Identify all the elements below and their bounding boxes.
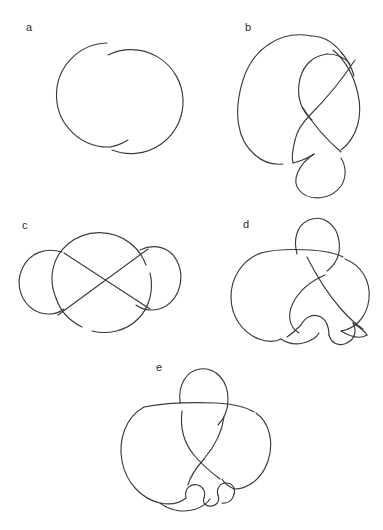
knot-drawing-d	[215, 205, 383, 360]
top-loop	[296, 218, 340, 271]
link-component-right	[108, 50, 183, 154]
bottom-zigzag-middle	[203, 495, 218, 506]
bottom-left-close	[160, 499, 210, 511]
inner-right-strand	[188, 417, 224, 485]
left-lobe	[231, 253, 281, 341]
bottom-zigzag-right	[217, 483, 234, 495]
right-lobe	[136, 247, 181, 310]
bottom-wiggle-right	[329, 323, 355, 345]
horizontal-band	[144, 403, 254, 412]
right-lobe	[234, 413, 271, 489]
bottom-zigzag-left	[186, 485, 205, 498]
inner-loop-left	[299, 54, 327, 120]
bottom-zigzag-close	[222, 494, 234, 503]
x-strand-up	[58, 249, 148, 315]
right-lower-arc	[222, 479, 234, 489]
inner-left-curl	[290, 275, 325, 333]
center-circle-right	[92, 273, 152, 333]
horizontal-band	[261, 249, 343, 257]
diagonal-over-strand	[295, 60, 355, 140]
panel-d: d	[215, 205, 383, 360]
link-component-left-tail	[110, 140, 128, 147]
panel-label-e: e	[156, 362, 162, 373]
bottom-left-close	[281, 333, 319, 344]
panel-a: a	[0, 0, 200, 200]
center-circle-top	[52, 233, 146, 298]
panel-label-b: b	[245, 22, 251, 33]
link-component-left	[56, 43, 110, 147]
inner-diagonal-down	[307, 257, 363, 329]
bottom-wiggle-left	[301, 315, 329, 335]
panel-e: e	[100, 355, 290, 530]
lower-loop	[296, 154, 345, 198]
left-lobe	[121, 407, 186, 504]
center-circle-bottom	[56, 298, 82, 327]
knot-diagram-figure: a b	[0, 0, 383, 530]
panel-label-a: a	[26, 22, 32, 33]
right-lobe	[333, 50, 360, 150]
knot-drawing-c	[0, 205, 200, 360]
inner-loop-bottom	[292, 140, 295, 163]
bottom-left-arc	[287, 325, 301, 337]
right-bottom-loop	[341, 331, 367, 337]
knot-drawing-b	[215, 0, 383, 205]
right-lobe	[341, 259, 369, 331]
left-lobe	[19, 250, 64, 314]
diagonal-lower-strand	[303, 108, 341, 152]
panel-b: b	[215, 0, 383, 205]
top-loop	[180, 369, 228, 425]
knot-drawing-e	[100, 355, 290, 530]
lower-left-arc	[293, 154, 314, 163]
panel-label-d: d	[243, 219, 249, 230]
panel-c: c	[0, 205, 200, 360]
panel-label-c: c	[22, 220, 28, 231]
